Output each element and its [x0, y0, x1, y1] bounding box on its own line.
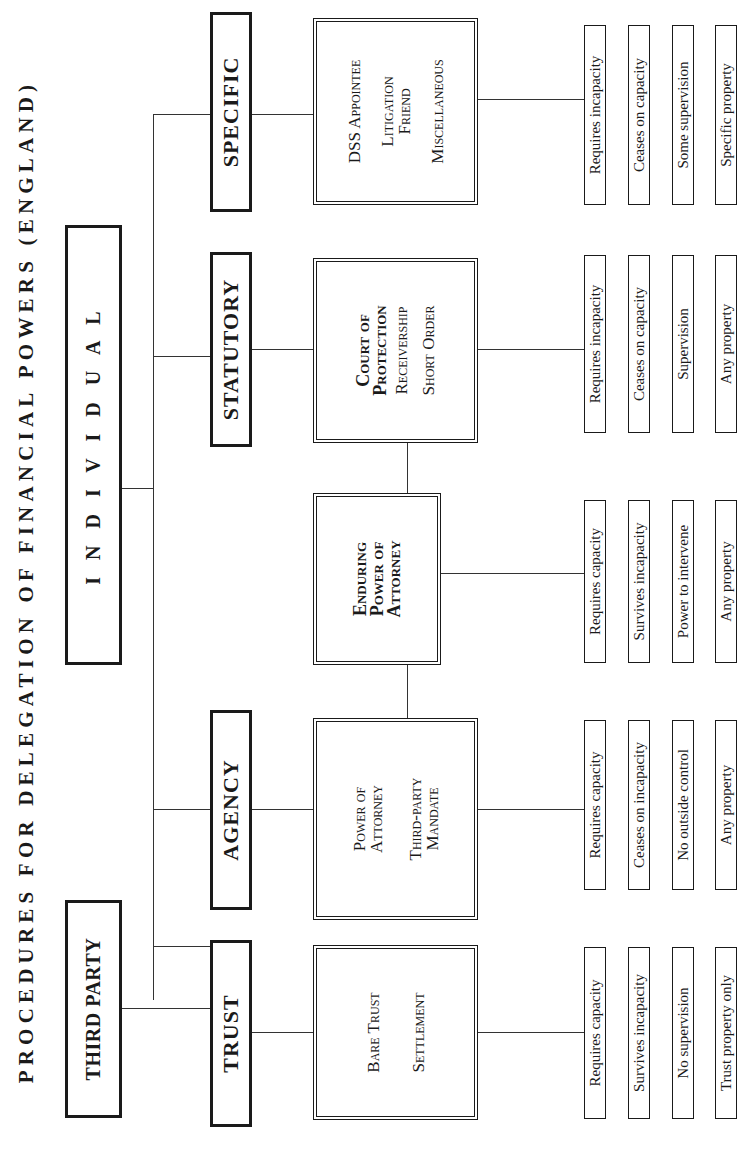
attribute-box: Ceases on capacity — [628, 25, 650, 205]
connector-third-party-trust — [122, 1008, 210, 1009]
attribute-box: Any property — [715, 720, 737, 890]
connector-specific-detail — [252, 114, 313, 115]
detail-item: Litigation Friend — [379, 62, 413, 162]
detail-item: Court of Protection — [355, 296, 389, 406]
attribute-box: Trust property only — [715, 947, 737, 1119]
detail-item: Receivership — [393, 307, 410, 395]
third-party-label: THIRD PARTY — [82, 938, 105, 1081]
detail-item: Third-party Mandate — [407, 764, 441, 874]
attribute-box: No outside control — [672, 720, 694, 890]
connector-trust-attrs — [478, 1032, 584, 1033]
detail-box-agency: Power of Attorney Third-party Mandate — [313, 718, 478, 920]
category-label: AGENCY — [218, 759, 244, 860]
category-trust: TRUST — [210, 940, 252, 1127]
attribute-box: Specific property — [715, 25, 737, 205]
connector-bus-trust — [153, 946, 210, 947]
attribute-box: Supervision — [672, 255, 694, 433]
connector-trust-detail — [252, 1032, 313, 1033]
detail-item: Short Order — [420, 306, 437, 396]
attribute-box: Requires capacity — [584, 720, 606, 890]
attribute-box: Some supervision — [672, 25, 694, 205]
detail-box-enduring: Enduring Power of Attorney — [313, 493, 441, 665]
attribute-box: Requires capacity — [584, 500, 606, 663]
third-party-box: THIRD PARTY — [65, 900, 122, 1118]
diagram-title: PROCEDURES FOR DELEGATION OF FINANCIAL P… — [14, 0, 48, 1163]
category-label: SPECIFIC — [218, 57, 244, 168]
category-label: TRUST — [218, 994, 244, 1072]
individual-label: I N D I V I D U A L — [82, 305, 105, 584]
connector-specific-attrs — [478, 99, 584, 100]
connector-bus — [153, 115, 154, 1000]
connector-agency-detail — [252, 809, 313, 810]
connector-statutory-detail — [252, 349, 313, 350]
attribute-box: Survives incapacity — [628, 947, 650, 1119]
category-label: STATUTORY — [218, 279, 244, 420]
attribute-box: Requires incapacity — [584, 25, 606, 205]
detail-box-trust: Bare Trust Settlement — [313, 945, 478, 1120]
attribute-box: Requires capacity — [584, 947, 606, 1119]
connector-bus-statutory — [153, 356, 210, 357]
connector-enduring-attrs — [441, 573, 584, 574]
attribute-box: Ceases on capacity — [628, 255, 650, 433]
attribute-box: Any property — [715, 500, 737, 663]
detail-item: Enduring Power of Attorney — [352, 529, 403, 629]
detail-item: Power of Attorney — [351, 774, 385, 864]
detail-box-statutory: Court of Protection Receivership Short O… — [313, 258, 478, 443]
diagram-canvas: PROCEDURES FOR DELEGATION OF FINANCIAL P… — [0, 0, 746, 1163]
connector-bus-specific — [153, 114, 210, 115]
detail-item: Miscellaneous — [429, 59, 446, 163]
attribute-box: No supervision — [672, 947, 694, 1119]
connector-statutory-attrs — [478, 349, 584, 350]
detail-box-specific: DSS Appointee Litigation Friend Miscella… — [313, 18, 478, 205]
attribute-box: Requires incapacity — [584, 255, 606, 433]
attribute-box: Ceases on incapacity — [628, 720, 650, 890]
detail-item: Settlement — [410, 992, 427, 1072]
category-agency: AGENCY — [210, 710, 252, 910]
detail-item: Bare Trust — [365, 992, 382, 1072]
connector-agency-enduring — [407, 665, 408, 718]
connector-agency-attrs — [478, 809, 584, 810]
category-statutory: STATUTORY — [210, 252, 252, 447]
category-specific: SPECIFIC — [210, 12, 252, 212]
detail-item: DSS Appointee — [346, 60, 363, 163]
attribute-box: Survives incapacity — [628, 500, 650, 663]
attribute-box: Power to intervene — [672, 500, 694, 663]
connector-enduring-statutory — [407, 443, 408, 493]
connector-individual-bus — [122, 488, 153, 489]
connector-bus-agency — [153, 809, 210, 810]
individual-box: I N D I V I D U A L — [65, 225, 122, 665]
attribute-box: Any property — [715, 255, 737, 433]
